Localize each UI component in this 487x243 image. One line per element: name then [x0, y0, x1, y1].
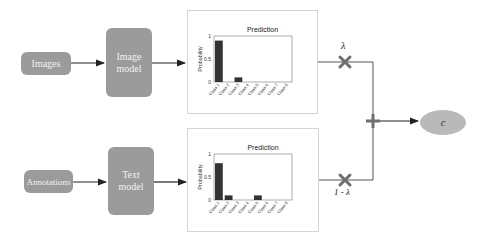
image-prediction-panel: Prediction Class 1Class 2Class 3Class 4C…: [187, 10, 318, 114]
image-model-label-2: model: [117, 63, 142, 75]
annotations-label: Annotations: [27, 176, 71, 188]
one-minus-lambda-label: 1 - λ: [334, 187, 350, 197]
images-label: Images: [32, 58, 61, 70]
svg-text:Class 8: Class 8: [276, 200, 289, 214]
output-ellipse: c: [420, 110, 466, 135]
svg-text:Probability: Probability: [197, 46, 203, 72]
text-prediction-panel: Prediction Class 1Class 2Class 3Class 4C…: [187, 128, 319, 232]
svg-text:0.5: 0.5: [204, 56, 211, 62]
svg-text:0: 0: [208, 197, 211, 203]
fusion-path: [316, 62, 373, 180]
text-model-box: Text model: [108, 147, 154, 215]
svg-text:Class 8: Class 8: [276, 82, 289, 96]
svg-text:0.5: 0.5: [204, 174, 211, 180]
lambda-label: λ: [341, 40, 345, 51]
svg-text:Probability: Probability: [197, 164, 203, 190]
image-prediction-chart: Class 1Class 2Class 3Class 4Class 5Class…: [188, 11, 317, 113]
svg-text:1: 1: [208, 33, 211, 39]
svg-text:1: 1: [208, 151, 211, 157]
image-model-box: Image model: [106, 28, 152, 97]
text-prediction-chart: Class 1Class 2Class 3Class 4Class 5Class…: [188, 129, 318, 231]
output-label: c: [441, 117, 445, 128]
image-model-label-1: Image: [117, 51, 142, 63]
text-model-label-1: Text: [122, 169, 140, 181]
svg-text:0: 0: [208, 79, 211, 85]
text-model-label-2: model: [119, 181, 144, 193]
plus-icon: [366, 114, 380, 128]
images-input-box: Images: [21, 52, 71, 75]
annotations-input-box: Annotations: [24, 170, 73, 193]
